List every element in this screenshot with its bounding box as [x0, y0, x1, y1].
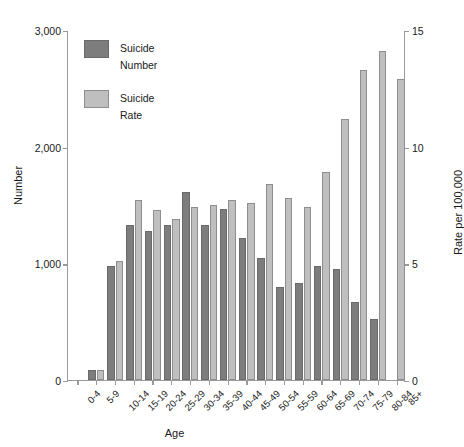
- y-axis-right-tick-label: 15: [404, 25, 424, 37]
- bar-suicide-number: [295, 283, 303, 380]
- bar-suicide-number: [333, 269, 341, 380]
- bar-group: 35-39: [199, 31, 218, 380]
- x-axis-tick-label: 20-24: [164, 388, 189, 413]
- x-axis-tick: [96, 380, 97, 385]
- suicide-number-and-rate-by-age-chart: 01,0002,0003,000 051015 0-45-910-1415-19…: [0, 0, 464, 447]
- x-axis-tick: [303, 380, 304, 385]
- bar-suicide-rate: [360, 70, 368, 380]
- bar-suicide-rate: [97, 370, 105, 381]
- bar-suicide-number: [107, 266, 115, 380]
- x-axis-tick: [115, 380, 116, 385]
- bar-suicide-rate: [285, 198, 293, 380]
- y-axis-left-tick-label: 2,000: [35, 142, 68, 154]
- x-axis-tick: [321, 380, 322, 385]
- bar-group: 75-79: [350, 31, 369, 380]
- bar-group: 65-69: [312, 31, 331, 380]
- bar-suicide-rate: [266, 184, 274, 380]
- legend-label: SuicideRate: [120, 90, 154, 124]
- bar-suicide-number: [126, 225, 134, 380]
- y-axis-right-title: Rate per 100,000: [452, 170, 464, 255]
- chart-legend: SuicideNumberSuicideRate: [84, 40, 157, 140]
- bar-group: 85+: [387, 31, 406, 380]
- x-axis-tick-label: 25-29: [182, 388, 207, 413]
- y-axis-right-tick-label: 0: [404, 375, 418, 387]
- legend-label: SuicideNumber: [120, 40, 157, 74]
- legend-label-line2: Rate: [120, 107, 154, 124]
- legend-item: SuicideRate: [84, 90, 157, 124]
- x-axis-tick: [77, 380, 78, 385]
- bar-suicide-number: [276, 287, 284, 380]
- bar-group: 80-84: [368, 31, 387, 380]
- bar-suicide-rate: [304, 207, 312, 380]
- bar-suicide-rate: [116, 261, 124, 380]
- bar-suicide-number: [220, 209, 228, 381]
- bar-suicide-rate: [247, 203, 255, 380]
- x-axis-tick: [152, 380, 153, 385]
- bar-suicide-rate: [210, 205, 218, 380]
- bar-suicide-rate: [397, 79, 405, 380]
- bar-suicide-rate: [341, 119, 349, 380]
- x-axis-tick: [171, 380, 172, 385]
- bar-suicide-number: [370, 319, 378, 380]
- y-axis-left-tick-label: 1,000: [35, 258, 68, 270]
- bar-group: 70-74: [331, 31, 350, 380]
- x-axis-tick-label: 75-79: [370, 388, 395, 413]
- bar-group: 50-54: [256, 31, 275, 380]
- x-axis-tick: [359, 380, 360, 385]
- x-axis-tick-label: 30-34: [201, 388, 226, 413]
- x-axis-tick-label: 55-59: [295, 388, 320, 413]
- bar-group: 30-34: [181, 31, 200, 380]
- x-axis-tick: [246, 380, 247, 385]
- bar-suicide-rate: [135, 200, 143, 380]
- bar-group: 55-59: [275, 31, 294, 380]
- y-axis-left-title: Number: [12, 166, 24, 205]
- legend-label-line2: Number: [120, 57, 157, 74]
- y-axis-left-tick-label: 3,000: [35, 25, 68, 37]
- bar-suicide-number: [164, 225, 172, 380]
- legend-label-line1: Suicide: [120, 40, 157, 57]
- bar-group: 40-44: [218, 31, 237, 380]
- bar-suicide-number: [145, 231, 153, 380]
- x-axis-tick: [340, 380, 341, 385]
- bar-suicide-rate: [379, 51, 387, 380]
- x-axis-tick: [190, 380, 191, 385]
- bar-suicide-rate: [228, 200, 236, 380]
- bar-suicide-rate: [191, 207, 199, 380]
- x-axis-tick: [228, 380, 229, 385]
- x-axis-tick-label: 65-69: [333, 388, 358, 413]
- bar-suicide-number: [182, 192, 190, 380]
- bar-group: 45-49: [237, 31, 256, 380]
- x-axis-tick: [134, 380, 135, 385]
- x-axis-tick: [378, 380, 379, 385]
- x-axis-tick-label: 0-4: [85, 388, 102, 405]
- x-axis-tick: [284, 380, 285, 385]
- bar-suicide-rate: [322, 172, 330, 380]
- y-axis-right-tick-label: 5: [404, 258, 418, 270]
- y-axis-right-tick-label: 10: [404, 142, 424, 154]
- legend-swatch-rate: [84, 90, 109, 108]
- x-axis-title-text: Age: [165, 427, 185, 439]
- bar-suicide-number: [351, 302, 359, 380]
- bar-suicide-number: [88, 370, 96, 380]
- x-axis-tick-label: 35-39: [220, 388, 245, 413]
- x-axis-tick: [397, 380, 398, 385]
- x-axis-tick: [209, 380, 210, 385]
- bar-suicide-number: [239, 238, 247, 380]
- x-axis-title: Age: [0, 427, 464, 439]
- legend-swatch-number: [84, 40, 109, 58]
- bar-suicide-rate: [172, 219, 180, 380]
- x-axis-tick: [265, 380, 266, 385]
- legend-item: SuicideNumber: [84, 40, 157, 74]
- x-axis-tick-label: 70-74: [351, 388, 376, 413]
- x-axis-tick-label: 50-54: [276, 388, 301, 413]
- bar-suicide-number: [257, 258, 265, 381]
- bar-group: 60-64: [293, 31, 312, 380]
- legend-label-line1: Suicide: [120, 90, 154, 107]
- bar-suicide-rate: [153, 210, 161, 380]
- bar-group: 25-29: [162, 31, 181, 380]
- x-axis-tick-label: 45-49: [257, 388, 282, 413]
- bar-suicide-number: [314, 266, 322, 380]
- x-axis-tick-label: 5-9: [104, 388, 121, 405]
- bar-suicide-number: [201, 225, 209, 380]
- x-axis-tick-label: 10-14: [126, 388, 151, 413]
